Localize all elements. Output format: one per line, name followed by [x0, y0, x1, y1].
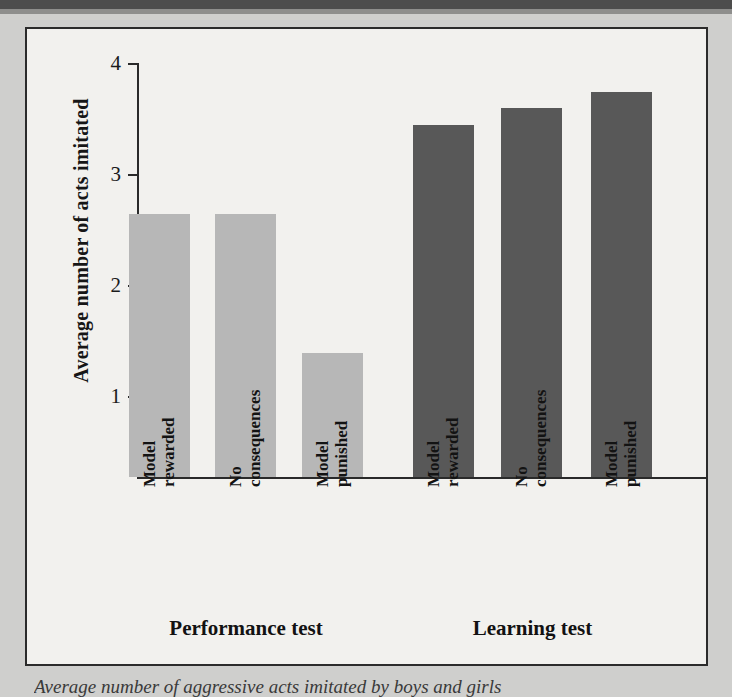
category-label-2: Noconsequences: [226, 337, 264, 487]
category-label-6: Modelpunished: [602, 337, 640, 487]
category-label-line2: consequences: [245, 337, 264, 487]
bar-chart: 1234 Average number of acts imitated Mod…: [27, 29, 706, 664]
category-label-line2: rewarded: [443, 337, 462, 487]
category-label-4: Modelrewarded: [424, 337, 462, 487]
page-top-band-shadow: [0, 9, 732, 14]
category-label-line1: Model: [602, 441, 621, 487]
y-tick-label-4: 4: [95, 51, 121, 76]
group-label-1: Performance test: [129, 616, 363, 641]
category-label-line1: Model: [313, 441, 332, 487]
y-axis-title: Average number of acts imitated: [70, 91, 93, 391]
category-label-line1: Model: [140, 441, 159, 487]
group-label-2: Learning test: [413, 616, 652, 641]
category-label-line2: consequences: [531, 337, 550, 487]
category-label-line1: No: [512, 466, 531, 487]
y-tick-label-1: 1: [95, 384, 121, 409]
category-label-3: Modelpunished: [313, 337, 351, 487]
category-label-line2: punished: [332, 337, 351, 487]
category-label-line2: punished: [621, 337, 640, 487]
category-label-line1: Model: [424, 441, 443, 487]
y-tick-4: [128, 63, 139, 65]
category-label-5: Noconsequences: [512, 337, 550, 487]
figure-panel: 1234 Average number of acts imitated Mod…: [25, 27, 708, 666]
category-label-line2: rewarded: [159, 337, 178, 487]
category-label-line1: No: [226, 466, 245, 487]
y-tick-3: [128, 174, 139, 176]
y-tick-label-2: 2: [95, 273, 121, 298]
category-label-1: Modelrewarded: [140, 337, 178, 487]
y-tick-label-3: 3: [95, 162, 121, 187]
page-top-band: [0, 0, 732, 9]
figure-caption: Average number of aggressive acts imitat…: [34, 676, 714, 697]
